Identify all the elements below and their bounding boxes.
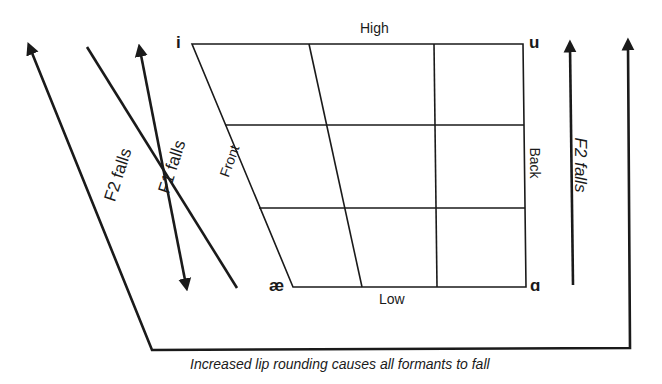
caption: Increased lip rounding causes all forman… — [190, 356, 490, 372]
axis-label-low: Low — [379, 291, 405, 307]
axis-label-high: High — [360, 20, 389, 36]
grid-line-v1 — [309, 44, 362, 287]
f2-falls-right-label: F2 falls — [570, 138, 590, 193]
grid-line-v2 — [434, 44, 437, 287]
vowel-quadrilateral-diagram — [0, 0, 662, 384]
vowel-ae: æ — [269, 276, 284, 296]
vowel-u: u — [529, 33, 539, 53]
quadrilateral-grid — [192, 44, 526, 287]
vowel-i: i — [176, 33, 181, 53]
axis-label-back: Back — [527, 147, 543, 178]
vowel-a: ɑ — [530, 276, 540, 296]
quadrilateral-outline — [192, 44, 526, 287]
